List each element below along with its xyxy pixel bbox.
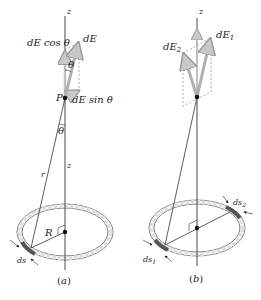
caption-b: (b) xyxy=(189,273,203,284)
z-label-top-b: z xyxy=(198,7,204,16)
dE-vector-a xyxy=(65,44,78,98)
ds2-label-b: ds2 xyxy=(233,198,246,208)
panel-a: z z dE cos θ dE θ P dE sin θ θ r R ds (a… xyxy=(10,7,113,286)
theta-bottom-a: θ xyxy=(58,125,64,136)
R-label-a: R xyxy=(44,227,53,238)
ring-charge-field-diagram: z z dE cos θ dE θ P dE sin θ θ r R ds (a… xyxy=(0,0,261,300)
z-label-top-a: z xyxy=(66,7,72,16)
dE-cos-label-a: dE cos θ xyxy=(27,37,70,48)
dE2-vector-b xyxy=(184,55,197,97)
ds1-label-b: ds1 xyxy=(143,255,156,265)
ring-center-a xyxy=(63,230,67,234)
caption-a: (a) xyxy=(57,275,71,286)
z-label-bottom-a: z xyxy=(66,161,72,170)
panel-b: z dE1 dE2 ds1 ds2 (b) xyxy=(143,7,253,284)
theta-top-a: θ xyxy=(68,59,74,70)
dE1-vector-b xyxy=(197,40,210,97)
P-label-a: P xyxy=(55,92,63,103)
dE2-label-b: dE2 xyxy=(163,41,182,54)
point-P-b xyxy=(195,95,200,100)
dE-sin-label-a: dE sin θ xyxy=(72,94,113,105)
point-P-a xyxy=(63,96,68,101)
dE1-label-b: dE1 xyxy=(216,29,234,42)
ds-label-a: ds xyxy=(17,256,26,265)
dE-label-a: dE xyxy=(83,33,97,44)
r-line-a xyxy=(31,98,65,248)
ds2-element-b xyxy=(226,207,240,218)
r-label-a: r xyxy=(41,170,46,179)
